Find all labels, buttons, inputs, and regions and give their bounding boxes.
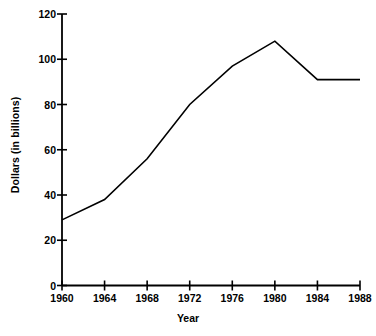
x-tick-label-1976: 1976 (210, 292, 254, 304)
x-tick-label-1968: 1968 (125, 292, 169, 304)
x-tick-label-1964: 1964 (83, 292, 127, 304)
plot-area (0, 0, 376, 336)
data-series-line (62, 41, 360, 220)
x-tick-label-1988: 1988 (338, 292, 376, 304)
x-tick-label-1980: 1980 (253, 292, 297, 304)
axis-lines (62, 14, 360, 286)
x-axis-title: Year (0, 312, 376, 324)
x-tick-label-1984: 1984 (295, 292, 339, 304)
line-chart: Dollars (in billions) 020406080100120 19… (0, 0, 376, 336)
x-tick-label-1960: 1960 (40, 292, 84, 304)
tick-marks (57, 14, 360, 291)
x-tick-label-1972: 1972 (168, 292, 212, 304)
